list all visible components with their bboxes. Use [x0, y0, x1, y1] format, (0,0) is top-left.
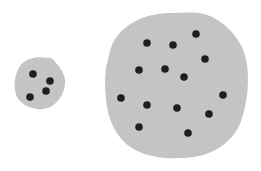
dot	[184, 129, 192, 137]
large-blob	[105, 13, 248, 159]
dot	[205, 110, 213, 118]
blob-body	[15, 57, 66, 109]
small-blob	[15, 57, 66, 109]
dot	[135, 66, 143, 74]
dot	[42, 87, 50, 95]
dot	[135, 123, 143, 131]
dot	[169, 41, 177, 49]
dot	[161, 65, 169, 73]
dot	[180, 73, 188, 81]
blob-body	[105, 13, 248, 159]
diagram-canvas	[0, 0, 261, 171]
dot	[143, 101, 151, 109]
dot	[173, 104, 181, 112]
dot	[192, 30, 200, 38]
dot	[219, 91, 227, 99]
dot	[29, 70, 37, 78]
dot	[46, 77, 54, 85]
dot	[201, 55, 209, 63]
dot	[117, 94, 125, 102]
dot	[26, 93, 34, 101]
dot	[143, 39, 151, 47]
